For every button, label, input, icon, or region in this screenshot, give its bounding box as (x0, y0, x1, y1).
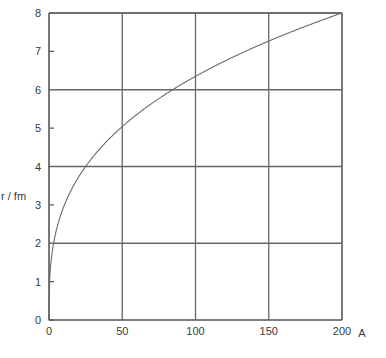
x-tick-label: 50 (116, 325, 128, 337)
y-tick-label: 1 (35, 276, 41, 288)
x-tick-label: 200 (333, 325, 351, 337)
x-tick-label: 0 (46, 325, 52, 337)
x-tick-label: 100 (186, 325, 204, 337)
y-tick-labels: 012345678 (35, 7, 41, 326)
y-axis-label: r / fm (1, 190, 26, 202)
x-axis-label: A (358, 327, 366, 339)
y-tick-label: 2 (35, 237, 41, 249)
chart-background (0, 0, 386, 358)
x-tick-label: 150 (260, 325, 278, 337)
y-tick-label: 8 (35, 7, 41, 19)
y-tick-label: 7 (35, 45, 41, 57)
y-tick-label: 0 (35, 314, 41, 326)
y-tick-label: 4 (35, 161, 41, 173)
nuclear-radius-chart: 050100150200 012345678 r / fm A (0, 0, 386, 358)
y-tick-label: 3 (35, 199, 41, 211)
chart-figure: 050100150200 012345678 r / fm A (0, 0, 386, 358)
y-tick-label: 6 (35, 84, 41, 96)
y-tick-label: 5 (35, 122, 41, 134)
